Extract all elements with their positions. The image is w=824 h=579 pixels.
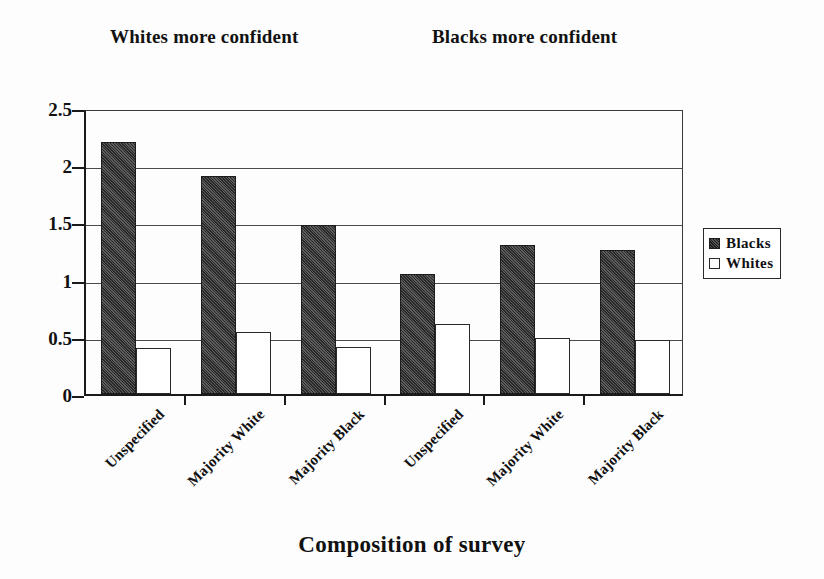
bar-whites-3 (336, 347, 371, 394)
y-axis-tick-mark (72, 167, 84, 169)
x-axis-tick-mark (583, 396, 585, 405)
bar-blacks-5 (500, 245, 535, 394)
y-axis-tick-mark (72, 224, 84, 226)
bar-blacks-4 (400, 274, 435, 394)
legend: Blacks Whites (703, 228, 781, 279)
y-axis-tick-mark (72, 339, 84, 341)
legend-label-whites: Whites (726, 255, 773, 272)
x-axis-tick-mark (483, 396, 485, 405)
gridline (86, 283, 682, 284)
annotation-whites-more-confident: Whites more confident (110, 26, 299, 48)
gridline (86, 225, 682, 226)
legend-label-blacks: Blacks (726, 235, 771, 252)
y-axis-tick-mark (72, 396, 84, 398)
bar-blacks-3 (301, 225, 336, 394)
legend-item-whites: Whites (709, 253, 773, 273)
bar-whites-2 (236, 332, 271, 394)
x-axis-tick-mark (284, 396, 286, 405)
gridline (86, 168, 682, 169)
gridline (86, 340, 682, 341)
bar-blacks-2 (201, 176, 236, 395)
x-axis-tick-mark (384, 396, 386, 405)
y-axis-tick-mark (72, 110, 84, 112)
bar-blacks-6 (600, 250, 635, 394)
bar-chart-figure: Whites more confident Blacks more confid… (0, 0, 824, 579)
plot-area (84, 110, 683, 396)
bar-whites-6 (635, 340, 670, 394)
bar-blacks-1 (101, 142, 136, 394)
bar-whites-1 (136, 348, 171, 394)
bar-whites-4 (435, 324, 470, 394)
legend-item-blacks: Blacks (709, 233, 773, 253)
bar-whites-5 (535, 338, 570, 394)
legend-swatch-blacks-icon (709, 238, 720, 249)
y-axis-tick-mark (72, 282, 84, 284)
legend-swatch-whites-icon (709, 258, 720, 269)
annotation-blacks-more-confident: Blacks more confident (432, 26, 617, 48)
y-axis-ticks (0, 110, 84, 396)
x-axis-title: Composition of survey (0, 532, 824, 558)
x-axis-tick-mark (184, 396, 186, 405)
